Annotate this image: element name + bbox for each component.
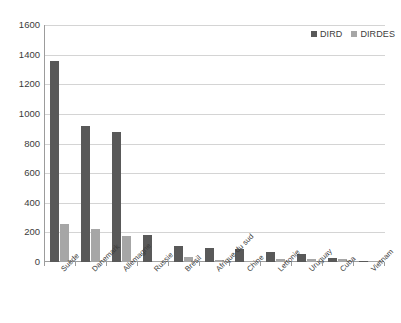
bar-group xyxy=(112,25,131,262)
x-axis-tick xyxy=(229,262,230,266)
x-axis: SuèdeDanemarkAllemagneRussieBrésilAfriqu… xyxy=(44,267,384,323)
bar-dird-7[interactable] xyxy=(266,252,275,262)
bar-chart: DIRDDIRDES 16001400120010008006004002000… xyxy=(0,0,401,323)
y-axis-tick-label: 800 xyxy=(6,139,40,148)
bar-dird-0[interactable] xyxy=(50,61,59,262)
y-axis-tick-label: 1600 xyxy=(6,20,40,29)
x-axis-tick xyxy=(137,262,138,266)
bar-group xyxy=(359,25,378,262)
bar-group xyxy=(235,25,254,262)
bar-group xyxy=(50,25,69,262)
bar-dird-4[interactable] xyxy=(174,246,183,262)
y-axis-tick-label: 0 xyxy=(6,257,40,266)
x-axis-tick xyxy=(260,262,261,266)
bar-group xyxy=(328,25,347,262)
bar-dird-9[interactable] xyxy=(328,258,337,262)
bar-group xyxy=(266,25,285,262)
bars-layer xyxy=(44,25,384,262)
x-axis-tick xyxy=(384,262,385,266)
x-axis-tick xyxy=(291,262,292,266)
bar-group xyxy=(205,25,224,262)
y-axis-tick-label: 1200 xyxy=(6,79,40,88)
x-axis-tick xyxy=(199,262,200,266)
bar-group xyxy=(174,25,193,262)
y-axis-tick-label: 1000 xyxy=(6,109,40,118)
x-axis-tick xyxy=(168,262,169,266)
bar-dirdes-0[interactable] xyxy=(60,224,69,262)
x-axis-tick xyxy=(322,262,323,266)
y-axis-tick-label: 200 xyxy=(6,227,40,236)
x-axis-tick xyxy=(106,262,107,266)
bar-dird-10[interactable] xyxy=(359,261,368,262)
bar-group xyxy=(81,25,100,262)
y-axis-tick-label: 600 xyxy=(6,168,40,177)
bar-dird-1[interactable] xyxy=(81,126,90,262)
y-axis-tick-label: 400 xyxy=(6,198,40,207)
x-axis-tick xyxy=(353,262,354,266)
x-axis-tick xyxy=(44,262,45,266)
bar-group xyxy=(297,25,316,262)
bar-group xyxy=(143,25,162,262)
x-axis-tick xyxy=(75,262,76,266)
bar-dird-5[interactable] xyxy=(205,248,214,262)
y-axis-tick-label: 1400 xyxy=(6,50,40,59)
